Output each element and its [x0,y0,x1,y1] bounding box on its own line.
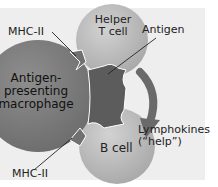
lymphokines-label: Lymphokines (“help”) [138,124,210,148]
mhc-ii-label-bottom: MHC-II [12,168,48,180]
macrophage-label: Antigen- presenting macrophage [0,72,76,111]
mhc-ii-label-top: MHC-II [8,26,44,38]
helper-t-cell-label: Helper T cell [88,14,138,38]
b-cell-label: B cell [100,142,133,154]
antigen-shape [88,64,126,128]
antigen-label: Antigen [142,24,185,36]
